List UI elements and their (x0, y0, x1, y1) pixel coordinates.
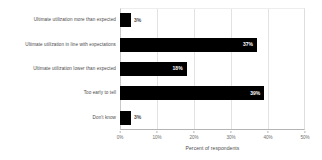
bar-chart: Ultimate utilization more than expected3… (0, 0, 322, 160)
bar-value-label: 3% (134, 115, 141, 120)
category-label: Ultimate utilization more than expected (0, 17, 116, 23)
table-row: Too early to tell39% (0, 81, 322, 105)
tick-mark (193, 131, 194, 133)
x-tick-label: 40% (263, 131, 272, 141)
x-tick-label: 30% (226, 131, 235, 141)
category-label: Ultimate utilization in line with expect… (0, 42, 116, 48)
bar-container: 3% (120, 106, 131, 130)
category-label: Too early to tell (0, 90, 116, 96)
bar (120, 13, 131, 27)
bar (120, 86, 264, 100)
x-tick-label: 0% (117, 131, 124, 141)
bar (120, 38, 257, 52)
table-row: Ultimate utilization in line with expect… (0, 32, 322, 56)
bar-value-label: 37% (243, 42, 253, 47)
tick-mark (156, 131, 157, 133)
bar-container: 18% (120, 57, 187, 81)
category-label: Ultimate utilization lower than expected (0, 66, 116, 72)
category-label: Don't know (0, 115, 116, 121)
table-row: Don't know3% (0, 106, 322, 130)
x-tick-label: 20% (189, 131, 198, 141)
bar-container: 37% (120, 32, 257, 56)
table-row: Ultimate utilization more than expected3… (0, 8, 322, 32)
x-tick-label: 10% (152, 131, 161, 141)
bar-container: 3% (120, 8, 131, 32)
bar-value-label: 3% (134, 18, 141, 23)
table-row: Ultimate utilization lower than expected… (0, 57, 322, 81)
tick-mark (267, 131, 268, 133)
bar-rows: Ultimate utilization more than expected3… (0, 8, 322, 130)
bar-container: 39% (120, 81, 264, 105)
bar-value-label: 39% (250, 91, 260, 96)
tick-mark (119, 131, 120, 133)
x-tick-label: 50% (300, 131, 309, 141)
bar-value-label: 18% (173, 66, 183, 71)
tick-mark (304, 131, 305, 133)
bar (120, 111, 131, 125)
x-axis-ticks: 0%10%20%30%40%50% (120, 131, 305, 141)
x-axis-title: Percent of respondents (120, 145, 305, 152)
tick-mark (230, 131, 231, 133)
